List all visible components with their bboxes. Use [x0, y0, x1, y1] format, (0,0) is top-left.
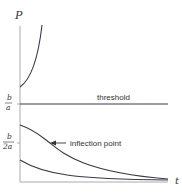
inflection-label: inflection point [70, 139, 122, 148]
curve-above-threshold [20, 25, 42, 87]
tick-label-b-over-2a-den: 2a [2, 142, 12, 151]
tick-label-b-over-a-num: b [7, 93, 12, 102]
y-axis-label: P [14, 9, 23, 22]
curve-with-inflection [20, 125, 168, 179]
x-axis-label: t [175, 175, 180, 186]
logistic-threshold-diagram: P t threshold inflection point b a b 2a [0, 0, 182, 194]
threshold-label: threshold [97, 93, 130, 102]
tick-label-b-over-2a-num: b [7, 132, 12, 141]
tick-label-b-over-a-den: a [6, 103, 10, 112]
